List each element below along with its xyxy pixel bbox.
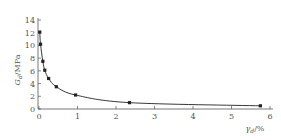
y-tick-label: 14 (25, 16, 35, 25)
x-tick-label: 0 (36, 112, 41, 121)
data-point-marker (39, 43, 42, 46)
data-point-marker (55, 85, 58, 88)
y-tick-label: 2 (30, 92, 35, 101)
data-point-marker (41, 60, 44, 63)
data-point-marker (128, 101, 131, 104)
x-tick-label: 6 (267, 112, 272, 121)
y-tick-label: 8 (30, 54, 35, 63)
x-tick-label: 2 (113, 112, 118, 121)
y-tick-label: 10 (25, 41, 35, 50)
axes (38, 18, 273, 109)
data-point-marker (259, 104, 262, 107)
data-curve (40, 32, 261, 106)
data-point-marker (47, 77, 50, 80)
x-tick-label: 4 (190, 112, 195, 121)
chart: 02468101214 0123456 Gd/MPa γd/% (0, 0, 281, 140)
data-point-marker (38, 30, 41, 33)
x-tick-label: 3 (152, 112, 157, 121)
y-tick-label: 6 (30, 67, 35, 76)
x-tick-label: 5 (229, 112, 234, 121)
y-tick-label: 4 (30, 80, 35, 89)
data-markers (38, 30, 262, 107)
data-point-marker (74, 93, 77, 96)
y-tick-label: 12 (25, 29, 35, 38)
data-point-marker (43, 69, 46, 72)
x-axis-ticks: 0123456 (36, 106, 272, 121)
y-tick-label: 0 (30, 105, 35, 114)
y-axis-title: Gd/MPa (13, 54, 23, 85)
x-axis-title: γd/% (246, 124, 265, 134)
x-tick-label: 1 (75, 112, 80, 121)
